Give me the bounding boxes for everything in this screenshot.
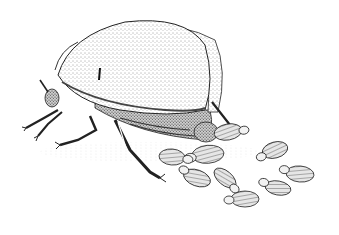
larva <box>211 164 245 195</box>
larva <box>257 178 292 198</box>
larva <box>278 164 314 183</box>
beetle-drawing <box>0 0 339 235</box>
ground-shadow <box>40 142 260 162</box>
larva <box>175 164 212 191</box>
larva <box>224 191 259 207</box>
larva <box>213 120 250 142</box>
beetle-illustration <box>0 0 339 235</box>
